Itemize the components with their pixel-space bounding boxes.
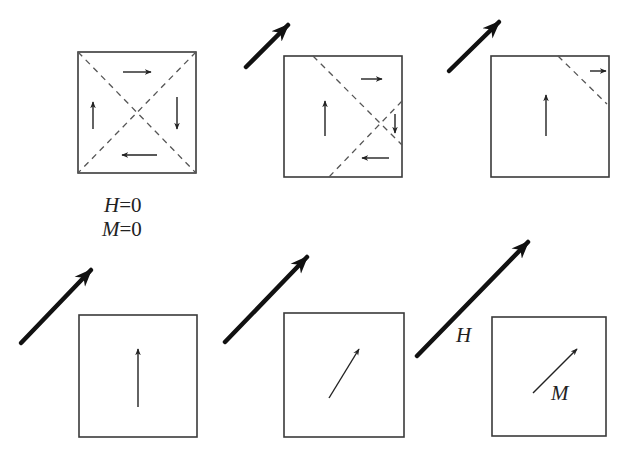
field-h-label: H [455, 323, 473, 347]
domain-magnetization-diagram: H=0 M=0 H M [0, 0, 635, 459]
applied-field-arrow-icon [21, 270, 91, 343]
magnetization-m-text: M [550, 381, 570, 405]
applied-field-arrow-icon [225, 257, 307, 342]
field-h-text: H [455, 323, 473, 347]
panel-4 [21, 270, 197, 437]
h-zero-label: H=0 [103, 193, 142, 217]
panel-2 [246, 25, 402, 177]
panel-6 [417, 242, 606, 436]
m-zero-label: M=0 [101, 217, 142, 241]
panel-1 [78, 52, 196, 173]
magnetization-m-label: M [550, 381, 570, 405]
sample-box [284, 313, 404, 437]
magnetization-arrow-up-right-icon [329, 349, 359, 398]
domain-wall-dashed-line [313, 56, 402, 145]
applied-field-arrow-icon [417, 242, 528, 356]
h-zero-value: =0 [119, 193, 141, 217]
sample-box [491, 56, 609, 177]
domain-wall-dashed-line [329, 101, 402, 177]
domain-wall-dashed-line [558, 56, 607, 104]
m-zero-value: =0 [120, 217, 142, 241]
diagram-canvas: H=0 M=0 H M [0, 0, 635, 459]
panel-5 [225, 257, 404, 437]
m-variable: M [101, 217, 121, 241]
panel-3 [449, 22, 609, 177]
sample-box [284, 56, 402, 177]
applied-field-arrow-icon [246, 25, 288, 67]
